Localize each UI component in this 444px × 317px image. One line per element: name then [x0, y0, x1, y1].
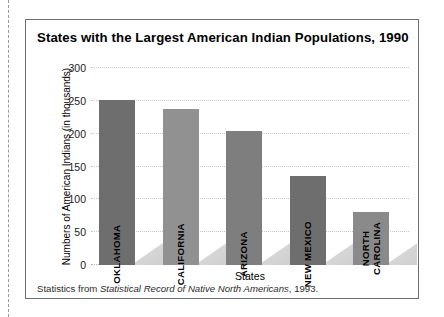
footnote-source-title: Statistical Record of Native North Ameri…: [100, 283, 289, 294]
bar-category-label: NORTHCAROLINA: [361, 222, 382, 275]
footnote-suffix: , 1993.: [289, 283, 318, 294]
footnote-prefix: Statistics from: [37, 283, 100, 294]
y-axis-tick-label: 300: [68, 62, 86, 74]
bar-shadow: [385, 243, 417, 265]
bar-label-wrapper: NORTHCAROLINA: [353, 238, 389, 259]
page-perforation-line: [8, 0, 9, 317]
bar-group[interactable]: NEW MEXICO: [290, 68, 326, 265]
bar-shadow: [322, 243, 354, 265]
x-axis-title: States: [91, 270, 409, 282]
bar[interactable]: CALIFORNIA: [163, 109, 199, 265]
bar[interactable]: NORTHCAROLINA: [353, 212, 389, 265]
bar-group[interactable]: ARIZONA: [226, 68, 262, 265]
bar-shadow: [258, 243, 290, 265]
figure-footnote: Statistics from Statistical Record of Na…: [37, 283, 318, 294]
bar-label-wrapper: CALIFORNIA: [163, 249, 199, 260]
y-axis-tick-label: 50: [74, 226, 86, 238]
bar-shadow: [195, 243, 227, 265]
bar-label-wrapper: OKLAHOMA: [99, 249, 135, 260]
bar-group[interactable]: OKLAHOMA: [99, 68, 135, 265]
bar[interactable]: ARIZONA: [226, 131, 262, 265]
y-axis-tick-label: 100: [68, 193, 86, 205]
y-axis-tick-label: 250: [68, 95, 86, 107]
bar[interactable]: OKLAHOMA: [99, 100, 135, 265]
bar-label-wrapper: NEW MEXICO: [290, 249, 326, 260]
y-axis-tick-label: 150: [68, 161, 86, 173]
bar-group[interactable]: NORTHCAROLINA: [353, 68, 389, 265]
figure-frame: States with the Largest American Indian …: [25, 19, 419, 299]
plot-area: 050100150200250300 OKLAHOMACALIFORNIAARI…: [91, 68, 409, 265]
y-axis-tick-label: 0: [80, 259, 86, 271]
bar[interactable]: NEW MEXICO: [290, 176, 326, 265]
bar-label-wrapper: ARIZONA: [226, 249, 262, 260]
bar-group[interactable]: CALIFORNIA: [163, 68, 199, 265]
bar-shadow: [131, 243, 163, 265]
bars-layer: OKLAHOMACALIFORNIAARIZONANEW MEXICONORTH…: [91, 68, 409, 265]
chart-title: States with the Largest American Indian …: [37, 30, 417, 45]
y-axis-tick-label: 200: [68, 128, 86, 140]
